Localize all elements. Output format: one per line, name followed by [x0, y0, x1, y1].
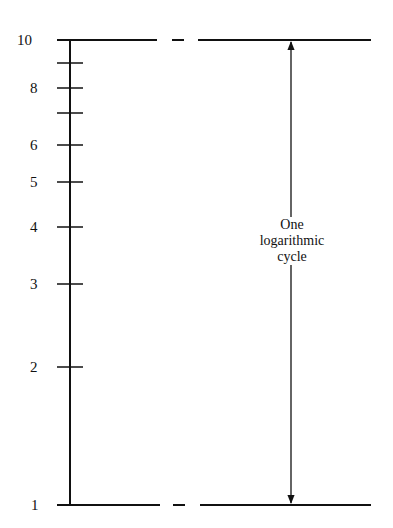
tick-label-4: 4	[30, 220, 38, 235]
tick-label-6: 6	[30, 138, 38, 153]
tick-label-3: 3	[30, 277, 38, 292]
cycle-annotation: One logarithmic cycle	[246, 217, 338, 265]
tick-label-2: 2	[30, 360, 38, 375]
annotation-line-1: One	[246, 217, 338, 233]
annotation-line-2: logarithmic	[246, 233, 338, 249]
tick-label-1: 1	[31, 498, 39, 513]
tick-label-10: 10	[17, 33, 32, 48]
tick-label-5: 5	[30, 175, 38, 190]
annotation-line-3: cycle	[246, 249, 338, 265]
tick-label-8: 8	[30, 81, 38, 96]
